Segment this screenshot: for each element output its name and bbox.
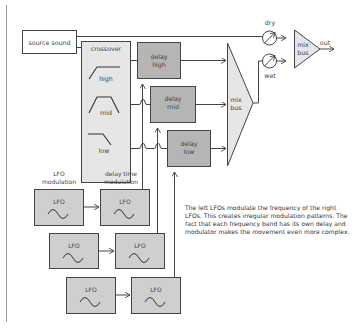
crossover-band-high: high xyxy=(99,75,113,83)
wet-mix-bus-label-2: bus xyxy=(230,104,241,111)
signal-flow-diagram: source sound crossover high mid low dela… xyxy=(0,0,356,332)
crossover-title: crossover xyxy=(91,45,122,52)
output-mix-bus-label-1: mix xyxy=(297,41,309,48)
explanation-note: The left LFOs modulate the frequency of … xyxy=(185,204,355,236)
delay-time-modulation-header-1: delay time xyxy=(105,170,137,178)
lfo-modulator-1: LFO xyxy=(35,190,84,226)
delay-mid-label-2: mid xyxy=(167,103,179,110)
lfo-modulator-3: LFO xyxy=(67,278,116,314)
crossover-band-mid: mid xyxy=(100,109,112,116)
lfo-modulation-header-1: LFO xyxy=(53,170,65,177)
delay-lfo-2: LFO xyxy=(116,234,165,269)
source-sound-block: source sound xyxy=(23,31,77,54)
wet-mix-bus: mix bus xyxy=(228,43,254,166)
wet-mix-bus-label-1: mix xyxy=(230,96,242,103)
lfo-label: LFO xyxy=(85,286,97,293)
delay-lfo-1: LFO xyxy=(101,190,150,226)
delay-low-label-2: low xyxy=(184,148,195,155)
delay-mid-block: delay mid xyxy=(151,87,196,123)
output-mix-bus-label-2: bus xyxy=(297,49,308,56)
lfo-label: LFO xyxy=(119,198,131,205)
lfo-modulation-header-2: modulation xyxy=(42,178,76,185)
delay-time-modulation-header-2: modulation xyxy=(104,178,138,185)
crossover-band-low: low xyxy=(99,147,110,154)
delay-low-label-1: delay xyxy=(180,140,197,148)
dry-gain-knob: dry xyxy=(263,19,277,45)
dry-label: dry xyxy=(265,19,276,27)
wet-gain-knob: wet xyxy=(263,54,277,79)
lfo-label: LFO xyxy=(53,198,65,205)
output-mix-bus: mix bus xyxy=(295,30,321,68)
out-label: out xyxy=(320,39,331,46)
delay-high-label-2: high xyxy=(152,61,166,69)
lfo-label: LFO xyxy=(134,242,146,249)
delay-mid-label-1: delay xyxy=(164,95,181,103)
delay-high-label-1: delay xyxy=(150,53,167,61)
lfo-modulator-2: LFO xyxy=(50,234,99,269)
source-sound-label: source sound xyxy=(28,39,70,46)
delay-high-block: delay high xyxy=(138,43,181,79)
delay-lfo-3: LFO xyxy=(132,278,181,314)
lfo-label: LFO xyxy=(68,242,80,249)
lfo-label: LFO xyxy=(150,286,162,293)
wet-label: wet xyxy=(264,72,276,79)
crossover-block: crossover high mid low xyxy=(82,42,131,183)
delay-low-block: delay low xyxy=(168,131,211,167)
wet-signal-line xyxy=(253,61,262,103)
